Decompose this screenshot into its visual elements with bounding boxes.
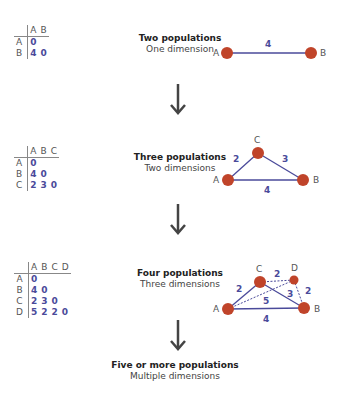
svg-text:4: 4 (264, 185, 270, 195)
svg-text:B: B (314, 304, 320, 314)
svg-text:5: 5 (263, 296, 269, 306)
svg-text:B: B (320, 48, 326, 58)
svg-text:2: 2 (236, 284, 242, 294)
svg-text:2: 2 (233, 154, 239, 164)
down-arrow-icon (171, 320, 185, 349)
svg-text:2: 2 (274, 269, 280, 279)
svg-text:D: D (291, 263, 298, 273)
svg-text:2: 2 (305, 286, 311, 296)
svg-text:4: 4 (263, 314, 269, 324)
svg-text:A: A (213, 48, 220, 58)
svg-text:3: 3 (287, 289, 293, 299)
down-arrow-icon (171, 204, 185, 233)
svg-text:C: C (256, 264, 262, 274)
graph-three-populations: ABC 2 3 4 (213, 135, 319, 195)
svg-text:A: A (213, 175, 220, 185)
graphs-svg: AB 4 ABC 2 3 4 AB CD 2 2 3 2 5 4 (0, 0, 343, 394)
svg-text:3: 3 (282, 154, 288, 164)
graph-four-populations: AB CD 2 2 3 2 5 4 (213, 263, 320, 324)
svg-text:C: C (254, 135, 260, 145)
svg-text:B: B (313, 175, 319, 185)
svg-text:A: A (213, 304, 220, 314)
svg-text:4: 4 (265, 39, 271, 49)
down-arrow-icon (171, 84, 185, 113)
graph-two-populations: AB 4 (213, 39, 326, 59)
